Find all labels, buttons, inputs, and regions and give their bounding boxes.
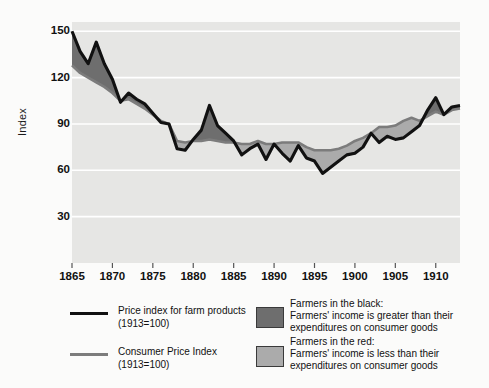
x-tick-label: 1895 (302, 270, 328, 282)
legend-label-cpi: Consumer Price Index (1913=100) (118, 346, 217, 371)
legend-line-cpi (70, 353, 108, 356)
x-tick-label: 1880 (180, 270, 206, 282)
plot-background (72, 22, 460, 263)
legend-swatch-black (256, 307, 284, 328)
x-tick-label: 1905 (383, 270, 409, 282)
chart-legend: Price index for farm products (1913=100)… (0, 296, 489, 388)
legend-title-red: Farmers in the red: (290, 336, 374, 348)
legend-line-farm (70, 312, 108, 315)
x-tick-label: 1885 (221, 270, 247, 282)
x-tick-label: 1910 (423, 270, 449, 282)
x-tick-label: 1900 (342, 270, 368, 282)
x-tick-label: 1865 (59, 270, 85, 282)
chart-root: Index 150120906030 186518701875188018851… (0, 0, 489, 388)
legend-swatch-red (256, 346, 284, 367)
legend-desc-black: Farmers' income is greater than their ex… (290, 310, 453, 334)
legend-title-black: Farmers in the black: (290, 298, 383, 310)
legend-desc-red: Farmers' income is less than their expen… (290, 348, 439, 372)
x-tick-label: 1890 (261, 270, 287, 282)
x-tick-label: 1870 (100, 270, 126, 282)
x-tick-label: 1875 (140, 270, 166, 282)
legend-label-farm: Price index for farm products (1913=100) (118, 305, 246, 330)
